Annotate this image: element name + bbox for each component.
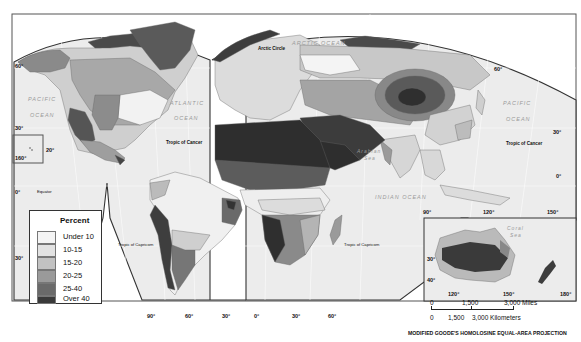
legend-label: Over 40 [63, 294, 90, 303]
aus-lat-30: 30° [427, 256, 435, 262]
legend-label: 10-15 [63, 245, 82, 254]
coral-sea-label-2: Sea [510, 232, 522, 238]
lon-90w: 90° [147, 313, 155, 319]
scale-km-zero: 0 [430, 314, 434, 321]
lon-150-asia: 150° [547, 209, 558, 215]
lon-30w: 30° [222, 313, 230, 319]
scale-line [431, 309, 514, 310]
lat-0-west: 0° [15, 189, 20, 195]
legend-item: 20-25 [37, 270, 101, 283]
lon-120-asia: 120° [483, 209, 494, 215]
legend-swatch [37, 257, 56, 270]
legend-swatch [37, 270, 56, 283]
equator-label: Equator [37, 189, 52, 194]
atlantic-label-1: ATLANTIC [169, 100, 204, 106]
lon-0: 0° [254, 313, 259, 319]
lon-120-aus: 120° [448, 291, 459, 297]
scale-miles-mid: 1,500 [462, 299, 478, 306]
arabian-sea-label-2: Sea [364, 155, 376, 161]
pacific-east-label-1: PACIFIC [503, 100, 531, 106]
arctic-circle-label: Arctic Circle [258, 46, 286, 51]
hawaii-lon-160: 160° [15, 155, 26, 161]
legend-item: Under 10 [37, 231, 101, 244]
tropic-cancer-east-label: Tropic of Cancer [506, 141, 542, 146]
lon-180-aus: 180° [560, 291, 571, 297]
legend-label: 25-40 [63, 284, 82, 293]
projection-label: MODIFIED GOODE'S HOMOLOSINE EQUAL-AREA P… [408, 330, 567, 336]
legend: Percent Under 10 10-15 15-20 20-25 25-40… [29, 210, 102, 304]
pacific-west-label-1: PACIFIC [28, 96, 56, 102]
lon-150-aus: 150° [503, 291, 514, 297]
tropic-capricorn-west-label: Tropic of Capricorn [118, 242, 154, 247]
lat-60-east: 60° [494, 66, 502, 72]
scale-km-label: 3,000 Kilometers [472, 314, 521, 321]
lat-0-east: 0° [556, 173, 561, 179]
lat-30-west: 30° [15, 125, 23, 131]
legend-swatch [37, 283, 56, 296]
australia-inset [424, 218, 576, 301]
legend-swatch [37, 244, 56, 257]
lon-30e: 30° [292, 313, 300, 319]
legend-label: 15-20 [63, 258, 82, 267]
atlantic-label-2: OCEAN [174, 115, 199, 121]
legend-title: Percent [60, 216, 89, 225]
lon-90-asia: 90° [423, 209, 431, 215]
legend-label: Under 10 [63, 232, 94, 241]
pacific-east-label-2: OCEAN [506, 116, 531, 122]
scale-miles-zero: 0 [430, 299, 434, 306]
lat-30-east: 30° [553, 129, 561, 135]
arabian-sea-label-1: Arabian [356, 148, 381, 154]
legend-item: Over 40 [37, 296, 101, 304]
pacific-west-label-2: OCEAN [30, 112, 55, 118]
aus-lat-40: 40° [427, 277, 435, 283]
scale-km-mid: 1,500 [448, 314, 464, 321]
tropic-capricorn-east-label: Tropic of Capricorn [344, 242, 380, 247]
legend-item: 10-15 [37, 244, 101, 257]
hawaii-lat-20: 20° [46, 147, 54, 153]
lon-60w: 60° [185, 313, 193, 319]
legend-label: 20-25 [63, 271, 82, 280]
arctic-label: ARCTIC OCEAN [291, 40, 346, 46]
lat-60-west: 60° [15, 63, 23, 69]
tropic-cancer-west-label: Tropic of Cancer [166, 140, 202, 145]
legend-swatch [37, 296, 56, 304]
legend-swatch [37, 231, 56, 244]
scale-miles-label: 3,000 Miles [504, 299, 537, 306]
legend-item: 15-20 [37, 257, 101, 270]
indian-ocean-label: INDIAN OCEAN [375, 194, 427, 200]
lat-s30-west: 30° [15, 255, 23, 261]
coral-sea-label-1: Coral [507, 225, 524, 231]
lon-60e: 60° [328, 313, 336, 319]
